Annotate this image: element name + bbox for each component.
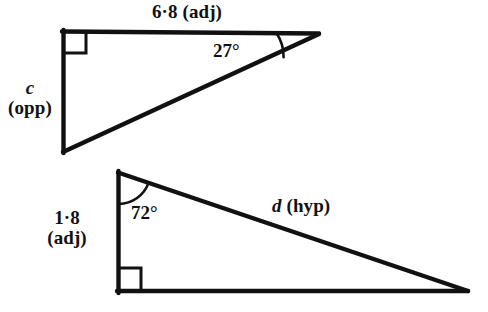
triangle-2-left-side-value: 1·8: [28, 208, 106, 228]
triangle-2-left-side-label: 1·8 (adj): [28, 208, 106, 248]
triangle-1-left-side-variable: c: [2, 78, 58, 98]
triangle-1-right-angle-marker: [64, 32, 86, 53]
triangle-2-right-angle-marker: [119, 268, 141, 290]
triangle-2-angle-arc: [119, 183, 149, 204]
triangle-1-group: [62, 30, 319, 153]
triangle-1-angle-label: 27°: [213, 41, 240, 61]
triangle-2-hypotenuse: [118, 173, 468, 292]
triangles-svg: [0, 0, 488, 312]
triangle-1-left-side-label: c (opp): [2, 78, 58, 118]
triangle-1-top-side-label: 6·8 (adj): [152, 2, 222, 22]
trigonometry-figure: 6·8 (adj) c (opp) 27° 1·8 (adj) 72° d (h…: [0, 0, 488, 312]
triangle-2-left-side-role: (adj): [28, 228, 106, 248]
triangle-2-hypotenuse-role: (hyp): [286, 195, 330, 216]
triangle-2-hypotenuse-variable: d: [272, 195, 282, 216]
triangle-2-hypotenuse-label: d (hyp): [272, 196, 330, 216]
triangle-1-top-side: [62, 32, 319, 34]
triangle-2-angle-label: 72°: [131, 203, 158, 223]
triangle-1-hypotenuse: [63, 34, 319, 152]
triangle-2-group: [117, 171, 468, 293]
triangle-1-left-side-role: (opp): [2, 98, 58, 118]
